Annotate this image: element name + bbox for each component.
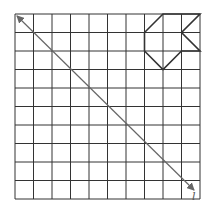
grid-diagram bbox=[0, 0, 210, 212]
shape-polygon bbox=[145, 14, 201, 70]
reflection-line bbox=[17, 16, 194, 190]
line-label: l bbox=[192, 190, 196, 203]
